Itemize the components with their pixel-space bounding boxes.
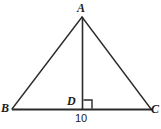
vertex-label-a: A (77, 2, 85, 14)
side-AC-line (82, 17, 151, 109)
geometry-figure: A B C D 10 (0, 0, 161, 129)
right-angle-mark-icon (84, 100, 93, 109)
vertex-label-d: D (67, 95, 76, 107)
base-length-label: 10 (75, 113, 87, 124)
triangle-diagram-svg (0, 0, 161, 129)
vertex-label-b: B (1, 102, 9, 114)
vertex-label-c: C (151, 103, 159, 115)
